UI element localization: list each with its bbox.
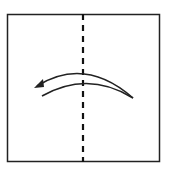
- fold-diagram: [0, 0, 171, 170]
